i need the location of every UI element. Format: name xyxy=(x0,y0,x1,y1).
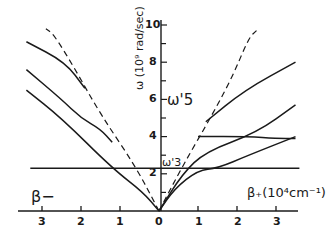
x-tick-neg2: 2 xyxy=(77,215,85,228)
x-tick-neg1: 1 xyxy=(116,215,124,228)
curve-4 xyxy=(26,70,112,143)
curve-3 xyxy=(26,42,85,88)
omega3-label: ω'3 xyxy=(162,156,181,169)
y-tick-8: 8 xyxy=(149,55,157,68)
beta-plus-label: β₊(10⁴cm⁻¹) xyxy=(247,185,326,200)
x-tick-1: 1 xyxy=(195,215,203,228)
x-tick-neg3: 3 xyxy=(38,215,46,228)
curve-7 xyxy=(198,137,296,139)
curve-6 xyxy=(206,62,296,122)
y-tick-4: 4 xyxy=(149,129,157,142)
omega5-label: ω'5 xyxy=(167,91,193,109)
beta-minus-label: β− xyxy=(31,187,55,206)
y-tick-6: 6 xyxy=(149,92,157,105)
x-tick-2: 2 xyxy=(234,215,242,228)
dispersion-diagram: ω (10⁹ rad/sec) 10 8 6 4 2 ω'5 ω'3 β− β₊… xyxy=(0,0,329,235)
x-tick-3: 3 xyxy=(273,215,281,228)
x-tick-0: 0 xyxy=(155,215,163,228)
y-tick-10: 10 xyxy=(145,18,160,31)
y-tick-2: 2 xyxy=(149,166,157,179)
